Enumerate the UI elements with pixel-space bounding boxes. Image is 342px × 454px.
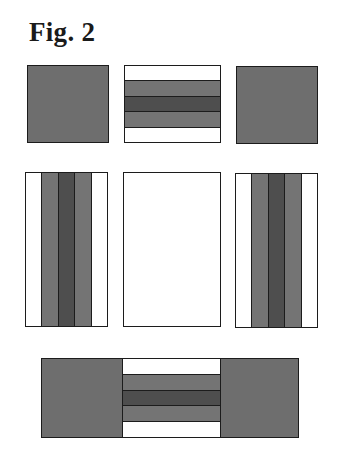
stripe-dark-gray (59, 173, 75, 326)
bottom-center-horizontal-stripes (123, 359, 220, 437)
stripe-mid-gray (125, 81, 220, 96)
stripe-mid-gray (285, 174, 301, 327)
stripe-white (302, 174, 317, 327)
top-left-solid-square (27, 65, 109, 143)
top-center-horizontal-stripes (124, 65, 221, 143)
stripe-mid-gray (75, 173, 91, 326)
stripe-white (26, 173, 42, 326)
middle-right-vertical-stripes (235, 173, 318, 328)
stripe-mid-gray (123, 375, 220, 391)
figure-title: Fig. 2 (29, 19, 95, 46)
middle-left-vertical-stripes (25, 172, 108, 327)
stripe-white (123, 359, 220, 375)
stripe-white (125, 128, 220, 142)
stripe-white (123, 422, 220, 437)
stripe-white (125, 66, 220, 81)
stripe-mid-gray (42, 173, 58, 326)
stripe-white (92, 173, 107, 326)
stripe-mid-gray (125, 112, 220, 127)
bottom-right-solid-block (220, 359, 298, 437)
stripe-white (236, 174, 252, 327)
bottom-left-solid-block (42, 359, 123, 437)
stripe-dark-gray (125, 97, 220, 112)
stripe-mid-gray (123, 406, 220, 422)
bottom-combined-strip (41, 358, 299, 438)
middle-center-blank-rectangle (123, 172, 221, 327)
stripe-dark-gray (269, 174, 285, 327)
stripe-dark-gray (123, 391, 220, 407)
stripe-mid-gray (252, 174, 268, 327)
top-right-solid-square (236, 66, 318, 144)
